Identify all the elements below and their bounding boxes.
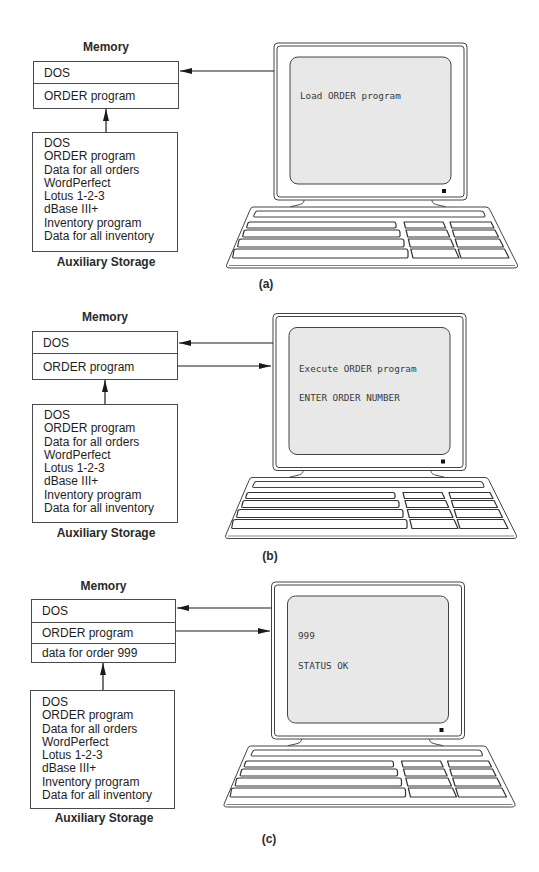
screen-line: Execute ORDER program xyxy=(299,364,417,374)
memory-title: Memory xyxy=(32,310,178,324)
storage-item: DOS xyxy=(44,409,177,422)
storage-item: Data for all orders xyxy=(44,164,177,177)
storage-item: Lotus 1-2-3 xyxy=(44,462,177,475)
memory-box: DOS ORDER program data for order 999 xyxy=(31,599,176,663)
storage-item: DOS xyxy=(42,696,174,709)
storage-item: Inventory program xyxy=(42,776,174,789)
storage-item: Inventory program xyxy=(44,489,177,502)
memory-box: DOS ORDER program xyxy=(32,331,178,380)
panel-caption: (a) xyxy=(254,277,278,291)
storage-item: Lotus 1-2-3 xyxy=(44,190,177,203)
auxiliary-storage-box: DOS ORDER program Data for all orders Wo… xyxy=(30,690,175,809)
storage-item: Lotus 1-2-3 xyxy=(42,749,174,762)
memory-row: DOS xyxy=(32,600,175,622)
auxiliary-storage-title: Auxiliary Storage xyxy=(28,811,180,825)
panel-caption: (b) xyxy=(258,549,282,563)
storage-item: Data for all orders xyxy=(44,436,177,449)
storage-item: WordPerfect xyxy=(44,177,177,190)
memory-row: DOS xyxy=(34,62,178,83)
monitor-screen-text: Execute ORDER program ENTER ORDER NUMBER xyxy=(299,345,417,421)
auxiliary-storage-title: Auxiliary Storage xyxy=(30,255,182,269)
storage-item: dBase III+ xyxy=(44,203,177,216)
memory-row: ORDER program xyxy=(32,622,175,643)
storage-item: Data for all inventory xyxy=(42,789,174,802)
auxiliary-storage-title: Auxiliary Storage xyxy=(30,526,182,540)
memory-row: data for order 999 xyxy=(32,643,175,662)
storage-item: WordPerfect xyxy=(42,736,174,749)
storage-item: WordPerfect xyxy=(44,449,177,462)
storage-item: Inventory program xyxy=(44,217,177,230)
storage-item: Data for all inventory xyxy=(44,230,177,243)
screen-line: Load ORDER program xyxy=(300,91,401,101)
memory-row: ORDER program xyxy=(33,353,177,379)
screen-line: 999 xyxy=(298,631,348,641)
storage-item: Data for all inventory xyxy=(44,502,177,515)
monitor-screen-text: 999 STATUS OK xyxy=(298,611,348,691)
panel-caption: (c) xyxy=(257,832,281,846)
storage-item: ORDER program xyxy=(44,150,177,163)
monitor-screen-text: Load ORDER program xyxy=(300,72,401,120)
memory-row: ORDER program xyxy=(34,83,178,108)
memory-box: DOS ORDER program xyxy=(33,61,179,109)
auxiliary-storage-box: DOS ORDER program Data for all orders Wo… xyxy=(32,132,178,252)
computer-c xyxy=(224,582,515,807)
storage-item: ORDER program xyxy=(44,422,177,435)
storage-item: dBase III+ xyxy=(44,475,177,488)
auxiliary-storage-box: DOS ORDER program Data for all orders Wo… xyxy=(32,404,178,523)
storage-item: DOS xyxy=(44,137,177,150)
memory-row: DOS xyxy=(33,332,177,353)
memory-title: Memory xyxy=(33,40,179,54)
storage-item: ORDER program xyxy=(42,709,174,722)
screen-line: STATUS OK xyxy=(298,661,348,671)
storage-item: dBase III+ xyxy=(42,762,174,775)
storage-item: Data for all orders xyxy=(42,723,174,736)
screen-line: ENTER ORDER NUMBER xyxy=(299,393,417,403)
memory-title: Memory xyxy=(31,579,176,593)
